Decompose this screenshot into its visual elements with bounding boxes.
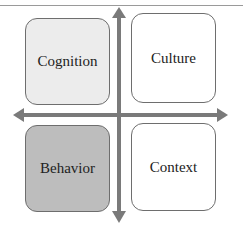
arrow-down-icon [112,211,126,223]
arrow-left-icon [13,108,24,122]
arrow-up-icon [112,7,126,18]
axes-arrows [0,0,243,227]
arrow-right-icon [217,108,228,122]
horizontal-axis-shaft [22,113,218,117]
